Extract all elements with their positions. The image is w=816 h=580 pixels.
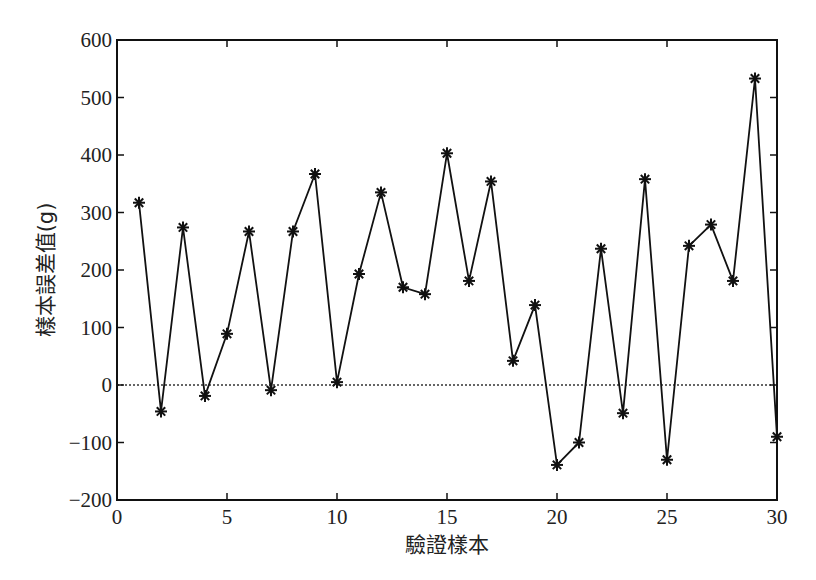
plot-frame xyxy=(117,40,777,500)
asterisk-marker xyxy=(463,275,475,287)
y-tick-label: −100 xyxy=(69,431,112,455)
x-tick-label: 15 xyxy=(437,505,458,529)
y-tick-label: 500 xyxy=(81,86,113,110)
asterisk-marker xyxy=(749,73,761,85)
asterisk-marker xyxy=(221,328,233,340)
x-tick-label: 5 xyxy=(222,505,233,529)
asterisk-marker xyxy=(507,355,519,367)
asterisk-marker xyxy=(771,431,783,443)
y-tick-label: 200 xyxy=(81,258,113,282)
data-series xyxy=(133,73,783,471)
x-tick-label: 20 xyxy=(547,505,568,529)
asterisk-marker xyxy=(309,168,321,180)
x-tick-label: 10 xyxy=(327,505,348,529)
asterisk-marker xyxy=(243,225,255,237)
asterisk-marker xyxy=(177,221,189,233)
asterisk-marker xyxy=(287,225,299,237)
asterisk-marker xyxy=(199,390,211,402)
asterisk-marker xyxy=(331,376,343,388)
line-chart: 051015202530−200−1000100200300400500600 … xyxy=(0,0,816,580)
y-tick-label: 400 xyxy=(81,143,113,167)
y-tick-label: 0 xyxy=(102,373,113,397)
asterisk-marker xyxy=(727,275,739,287)
asterisk-marker xyxy=(397,281,409,293)
y-axis-title: 樣本誤差值(g) xyxy=(34,203,58,338)
series-line xyxy=(139,79,777,465)
y-tick-label: 300 xyxy=(81,201,113,225)
asterisk-marker xyxy=(485,175,497,187)
asterisk-marker xyxy=(155,405,167,417)
x-axis-title: 驗證樣本 xyxy=(405,533,489,557)
asterisk-marker xyxy=(133,197,145,209)
y-tick-label: 100 xyxy=(81,316,113,340)
asterisk-marker xyxy=(375,186,387,198)
asterisk-marker xyxy=(441,147,453,159)
asterisk-marker xyxy=(265,384,277,396)
asterisk-marker xyxy=(353,268,365,280)
asterisk-marker xyxy=(617,407,629,419)
asterisk-marker xyxy=(639,173,651,185)
x-tick-label: 0 xyxy=(112,505,123,529)
asterisk-marker xyxy=(595,243,607,255)
asterisk-marker xyxy=(419,288,431,300)
asterisk-marker xyxy=(529,299,541,311)
asterisk-marker xyxy=(661,454,673,466)
x-tick-label: 30 xyxy=(767,505,788,529)
x-tick-label: 25 xyxy=(657,505,678,529)
y-tick-label: −200 xyxy=(69,488,112,512)
y-tick-label: 600 xyxy=(81,28,113,52)
